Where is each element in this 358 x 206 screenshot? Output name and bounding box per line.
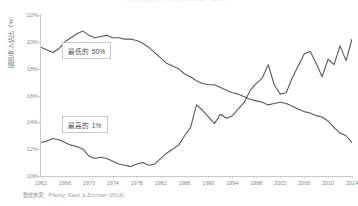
y-tick-label: 14% <box>18 119 38 125</box>
x-tick-label: 1990 <box>202 180 214 186</box>
x-tick-mark <box>185 176 186 178</box>
x-tick-label: 1966 <box>59 180 71 186</box>
x-tick-label: 2006 <box>298 180 310 186</box>
chart-title: 美國國民所得分配 1962－2014 <box>0 0 356 2</box>
series-annotation-top-1: 最高的 1% <box>62 116 108 133</box>
y-tick-mark <box>38 149 40 150</box>
y-tick-label: 20% <box>18 39 38 45</box>
x-tick-label: 1998 <box>250 180 262 186</box>
x-tick-mark <box>352 176 353 178</box>
x-tick-label: 1982 <box>154 180 166 186</box>
x-tick-mark <box>304 176 305 178</box>
x-tick-label: 1970 <box>83 180 95 186</box>
series-annotation-bottom-50: 最低的 50% <box>62 42 111 59</box>
y-tick-label: 18% <box>18 66 38 72</box>
y-tick-label: 12% <box>18 146 38 152</box>
y-tick-mark <box>38 96 40 97</box>
x-tick-mark <box>137 176 138 178</box>
x-tick-label: 2014 <box>346 180 358 186</box>
y-tick-label: 22% <box>18 12 38 18</box>
y-tick-mark <box>38 15 40 16</box>
source-note: 數據來源：Piketty, Saez & Zucman (2016) <box>23 191 124 199</box>
x-tick-mark <box>280 176 281 178</box>
x-tick-mark <box>41 176 42 178</box>
x-tick-mark <box>113 176 114 178</box>
x-tick-mark <box>328 176 329 178</box>
x-tick-label: 1974 <box>107 180 119 186</box>
y-axis-tick-labels: 22%20%18%16%14%12%10% <box>14 0 38 206</box>
x-tick-label: 2002 <box>274 180 286 186</box>
x-tick-mark <box>89 176 90 178</box>
x-tick-mark <box>65 176 66 178</box>
x-axis-tick-labels: 1962196619701974197819821986199019941998… <box>0 180 356 190</box>
x-tick-label: 1962 <box>35 180 47 186</box>
x-tick-mark <box>232 176 233 178</box>
x-tick-label: 1978 <box>131 180 143 186</box>
x-tick-label: 1994 <box>226 180 238 186</box>
y-tick-label: 16% <box>18 93 38 99</box>
y-tick-mark <box>38 69 40 70</box>
y-tick-mark <box>38 122 40 123</box>
x-tick-mark <box>208 176 209 178</box>
x-tick-mark <box>256 176 257 178</box>
y-tick-label: 10% <box>18 173 38 179</box>
x-tick-label: 2010 <box>322 180 334 186</box>
plot-area <box>41 15 352 176</box>
y-tick-mark <box>38 176 40 177</box>
x-axis-line <box>40 176 353 177</box>
x-tick-mark <box>161 176 162 178</box>
x-tick-label: 1986 <box>178 180 190 186</box>
y-tick-mark <box>38 42 40 43</box>
